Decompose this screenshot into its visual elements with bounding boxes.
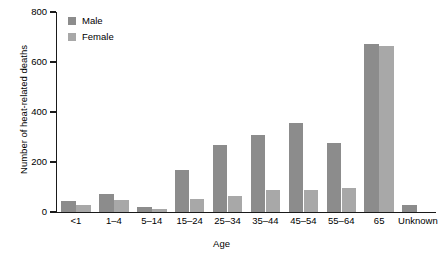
bar-male — [327, 143, 342, 213]
y-axis-tick-label: 400 — [7, 107, 47, 117]
bar-male — [213, 145, 228, 212]
bar-group — [251, 12, 281, 212]
y-axis-tick — [50, 61, 56, 62]
bar-female — [190, 199, 205, 212]
x-axis-tick-label: 55–64 — [322, 215, 360, 226]
bar-group — [364, 12, 394, 212]
bar-group — [175, 12, 205, 212]
y-axis-tick-label: 0 — [7, 207, 47, 217]
y-axis-tick-label: 800 — [7, 7, 47, 17]
legend-swatch-male-icon — [68, 17, 76, 25]
legend-label-male: Male — [82, 16, 103, 26]
y-axis-tick — [50, 11, 56, 12]
x-axis-tick-label: 35–44 — [247, 215, 285, 226]
y-axis-tick — [50, 161, 56, 162]
x-axis-tick-label: 25–34 — [209, 215, 247, 226]
x-axis-tick-label: 65 — [360, 215, 398, 226]
x-axis-tick-label: 15–24 — [171, 215, 209, 226]
bar-group — [289, 12, 319, 212]
bar-male — [364, 44, 379, 213]
bar-group — [327, 12, 357, 212]
y-axis-tick — [50, 111, 56, 112]
bar-female — [304, 190, 319, 213]
bar-female — [342, 188, 357, 213]
legend-entry-male: Male — [68, 13, 114, 29]
x-axis-tick-label: 5–14 — [133, 215, 171, 226]
bar-female — [379, 46, 394, 213]
bar-male — [289, 123, 304, 212]
bar-chart: Number of heat-related deaths 0200400600… — [0, 0, 443, 255]
plot-area — [57, 12, 436, 212]
bar-group — [213, 12, 243, 212]
bar-male — [251, 135, 266, 213]
x-axis-tick-label: 45–54 — [284, 215, 322, 226]
x-axis-tick-label: 1–4 — [95, 215, 133, 226]
bar-female — [266, 190, 281, 213]
x-axis-title: Age — [0, 238, 443, 249]
legend-entry-female: Female — [68, 29, 114, 45]
bar-female — [228, 196, 243, 212]
x-axis-tick-label: Unknown — [398, 215, 436, 226]
y-axis-tick-label: 200 — [7, 157, 47, 167]
bar-group — [137, 12, 167, 212]
bar-male — [99, 194, 114, 213]
bar-group — [402, 12, 432, 212]
x-axis-tick-label: <1 — [57, 215, 95, 226]
legend: Male Female — [68, 13, 114, 45]
bar-male — [61, 201, 76, 212]
legend-label-female: Female — [82, 32, 114, 42]
x-axis-line — [56, 212, 436, 214]
bar-male — [175, 170, 190, 212]
legend-swatch-female-icon — [68, 33, 76, 41]
bar-female — [114, 200, 129, 212]
y-axis-tick-label: 600 — [7, 57, 47, 67]
